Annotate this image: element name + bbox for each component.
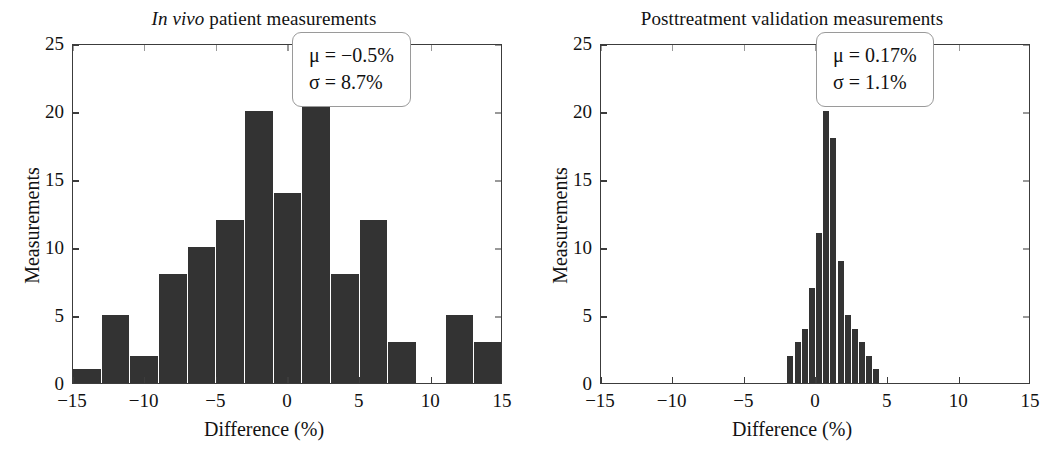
x-tick-label: −10 <box>129 390 159 412</box>
histogram-bar <box>873 369 880 383</box>
y-tick-mark <box>73 316 79 318</box>
y-tick-label: 25 <box>32 33 64 55</box>
stats-sigma-posttreatment: σ = 1.1% <box>833 69 917 96</box>
y-tick-mark-right <box>1023 44 1029 46</box>
y-tick-mark <box>601 180 607 182</box>
stats-mean-posttreatment: μ = 0.17% <box>833 42 917 69</box>
x-tick-mark <box>287 377 289 383</box>
histogram-bars-posttreatment <box>601 45 1029 383</box>
histogram-bar <box>859 342 866 383</box>
x-tick-mark-top <box>600 45 602 51</box>
x-tick-mark <box>216 377 218 383</box>
stats-box-in-vivo: μ = −0.5% σ = 8.7% <box>292 32 411 107</box>
y-tick-mark <box>601 248 607 250</box>
y-tick-mark <box>73 44 79 46</box>
y-tick-mark <box>601 44 607 46</box>
x-tick-mark-top <box>144 45 146 51</box>
y-tick-mark-right <box>1023 180 1029 182</box>
y-axis-label-posttreatment: Measurements <box>549 126 572 326</box>
histogram-bar <box>188 247 217 383</box>
x-tick-mark-top <box>216 45 218 51</box>
x-tick-mark <box>744 377 746 383</box>
x-tick-label: 10 <box>421 390 440 412</box>
x-tick-mark-top <box>431 45 433 51</box>
plot-area-posttreatment <box>600 44 1030 384</box>
x-tick-mark-top <box>959 45 961 51</box>
x-tick-mark-top <box>287 45 289 51</box>
x-tick-mark <box>600 377 602 383</box>
x-tick-label: 10 <box>949 390 968 412</box>
y-tick-mark-right <box>495 112 501 114</box>
histogram-bar <box>802 329 809 383</box>
histogram-bar <box>102 315 131 383</box>
histogram-bar <box>245 111 274 383</box>
y-tick-label: 0 <box>32 373 64 395</box>
histogram-bar <box>388 342 417 383</box>
x-tick-mark <box>959 377 961 383</box>
histogram-bar <box>795 342 802 383</box>
x-tick-mark <box>72 377 74 383</box>
y-tick-mark-right <box>495 180 501 182</box>
panel-title-roman-part: Posttreatment validation measurements <box>641 8 943 29</box>
stats-mean-in-vivo: μ = −0.5% <box>309 42 394 69</box>
x-tick-mark-top <box>672 45 674 51</box>
y-tick-mark <box>73 248 79 250</box>
histogram-bar <box>845 315 852 383</box>
histogram-bar <box>816 233 823 383</box>
x-tick-label: −5 <box>733 390 753 412</box>
x-tick-mark <box>672 377 674 383</box>
stats-sigma-in-vivo: σ = 8.7% <box>309 69 394 96</box>
histogram-bar <box>274 193 303 383</box>
y-tick-mark <box>73 180 79 182</box>
y-axis-label-in-vivo: Measurements <box>21 126 44 326</box>
histogram-bar <box>474 342 502 383</box>
histogram-bar <box>159 274 188 383</box>
x-tick-label: 0 <box>282 390 292 412</box>
histogram-figure: In vivo patient measurements −15−10−5051… <box>0 0 1057 458</box>
y-tick-label: 20 <box>560 101 592 123</box>
y-tick-mark-right <box>495 316 501 318</box>
x-tick-mark-top <box>744 45 746 51</box>
histogram-bar <box>302 70 331 383</box>
panel-title-italic-part: In vivo <box>152 8 205 29</box>
x-tick-mark <box>887 377 889 383</box>
y-tick-mark <box>73 112 79 114</box>
panel-title-posttreatment: Posttreatment validation measurements <box>528 8 1056 30</box>
y-tick-mark <box>601 112 607 114</box>
histogram-bar <box>823 111 830 383</box>
x-tick-label: 15 <box>493 390 512 412</box>
histogram-bar <box>838 261 845 383</box>
y-tick-mark <box>601 316 607 318</box>
histogram-bar <box>866 356 873 383</box>
x-tick-label: −10 <box>657 390 687 412</box>
y-tick-label: 0 <box>560 373 592 395</box>
histogram-bar <box>830 138 837 383</box>
x-axis-label-posttreatment: Difference (%) <box>528 418 1056 441</box>
x-tick-mark <box>815 377 817 383</box>
y-tick-mark-right <box>1023 112 1029 114</box>
y-tick-label: 25 <box>560 33 592 55</box>
histogram-bar <box>331 274 360 383</box>
y-tick-mark-right <box>1023 248 1029 250</box>
panel-posttreatment: Posttreatment validation measurements −1… <box>528 0 1056 458</box>
histogram-bar <box>446 315 475 383</box>
panel-in-vivo: In vivo patient measurements −15−10−5051… <box>0 0 528 458</box>
x-tick-label: 0 <box>810 390 820 412</box>
y-tick-label: 20 <box>32 101 64 123</box>
y-tick-mark-right <box>495 248 501 250</box>
x-tick-mark <box>144 377 146 383</box>
panel-title-roman-part: patient measurements <box>204 8 376 29</box>
y-tick-mark-right <box>495 44 501 46</box>
plot-area-in-vivo <box>72 44 502 384</box>
histogram-bar <box>73 369 102 383</box>
x-tick-label: 5 <box>354 390 364 412</box>
y-tick-mark-right <box>1023 316 1029 318</box>
stats-box-posttreatment: μ = 0.17% σ = 1.1% <box>816 32 934 107</box>
histogram-bar <box>852 329 859 383</box>
x-tick-label: 5 <box>882 390 892 412</box>
x-tick-mark <box>359 377 361 383</box>
histogram-bar <box>809 288 816 383</box>
x-tick-label: 15 <box>1021 390 1040 412</box>
histogram-bar <box>216 220 245 383</box>
histogram-bars-in-vivo <box>73 45 501 383</box>
